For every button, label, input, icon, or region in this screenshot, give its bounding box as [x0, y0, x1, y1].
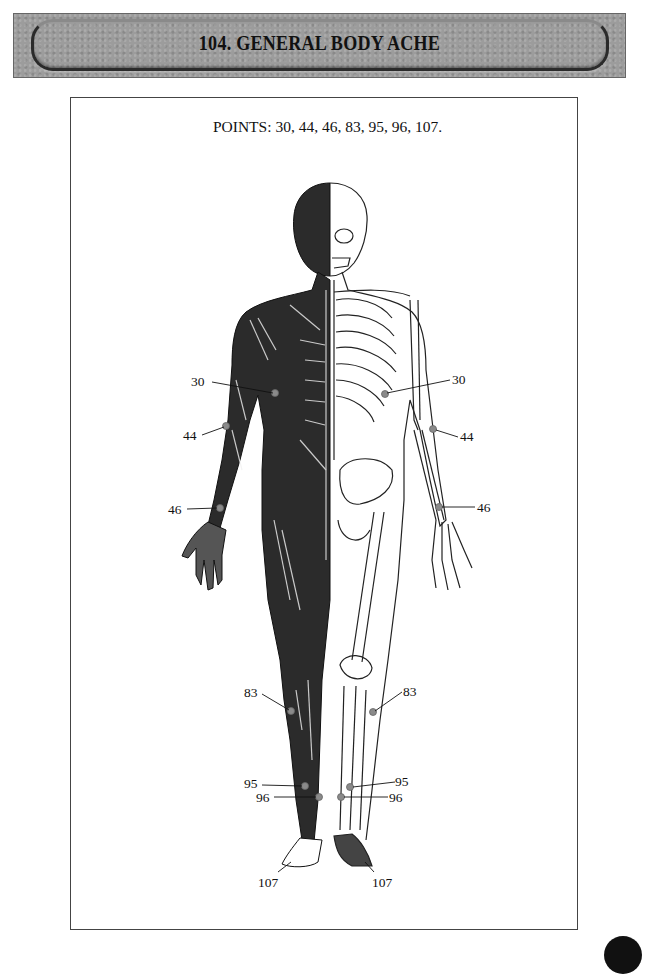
point-96-left — [316, 794, 323, 801]
label-46-left: 46 — [168, 502, 182, 517]
label-95-right: 95 — [395, 774, 409, 789]
label-30-left: 30 — [191, 374, 205, 389]
label-46-right: 46 — [477, 500, 491, 515]
label-107-left: 107 — [258, 875, 279, 890]
point-44-right — [430, 426, 437, 433]
point-30-right — [382, 391, 389, 398]
point-46-left — [217, 505, 224, 512]
point-83-left — [288, 708, 295, 715]
point-96-right — [338, 794, 345, 801]
label-83-left: 83 — [244, 685, 258, 700]
label-30-right: 30 — [452, 372, 466, 387]
point-46-right — [436, 504, 443, 511]
point-95-right — [347, 784, 354, 791]
label-44-right: 44 — [460, 429, 474, 444]
label-107-right: 107 — [372, 875, 393, 890]
label-96-left: 96 — [256, 790, 270, 805]
muscle-half-figure — [182, 183, 330, 867]
page-marker-dot — [604, 936, 642, 974]
point-83-right — [370, 709, 377, 716]
point-95-left — [302, 783, 309, 790]
label-96-right: 96 — [389, 790, 403, 805]
label-83-right: 83 — [403, 684, 417, 699]
skeleton-half-figure — [330, 183, 472, 866]
point-44-left — [223, 423, 230, 430]
label-95-left: 95 — [244, 776, 258, 791]
label-44-left: 44 — [183, 428, 197, 443]
